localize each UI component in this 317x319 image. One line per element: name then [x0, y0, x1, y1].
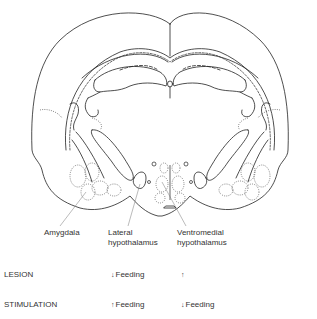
lesion-row-label: LESION	[4, 270, 33, 279]
amygdala-nucleus-1	[70, 165, 86, 187]
lesion-lateral-cell: ↓Feeding	[111, 270, 144, 279]
stimulation-row-label: STIMULATION	[4, 300, 57, 309]
brain-coronal-section-diagram	[0, 0, 317, 319]
ventromedial-hypothalamus-label: Ventromedial hypothalamus	[177, 228, 227, 248]
amygdala-leader	[60, 192, 86, 226]
inner-cortex-boundary	[65, 49, 274, 150]
up-arrow-icon: ↑	[111, 301, 115, 308]
right-ventricle	[173, 66, 246, 92]
lesion-lateral-text: Feeding	[116, 270, 145, 279]
lesion-ventromedial-cell: ↑	[181, 270, 186, 279]
up-arrow-icon: ↑	[181, 271, 185, 278]
lateral-hypothalamus-label-line1: Lateral	[108, 228, 158, 238]
brain-outer-outline	[32, 13, 289, 216]
ventromedial-hypothalamus-label-line1: Ventromedial	[177, 228, 227, 238]
stimulation-ventromedial-cell: ↓Feeding	[181, 300, 214, 309]
ventromedial-nucleus-right	[172, 176, 184, 192]
stimulation-lateral-text: Feeding	[116, 300, 145, 309]
ventromedial-hypothalamus-label-line2: hypothalamus	[177, 238, 227, 248]
down-arrow-icon: ↓	[181, 301, 185, 308]
left-internal-capsule	[91, 130, 133, 181]
amygdala-label: Amygdala	[44, 228, 80, 238]
down-arrow-icon: ↓	[111, 271, 115, 278]
stimulation-ventromedial-text: Feeding	[186, 300, 215, 309]
left-ventricle	[94, 66, 167, 92]
lateral-hypothalamus-label: Lateral hypothalamus	[108, 228, 158, 248]
lateral-hypothalamus-label-line2: hypothalamus	[108, 238, 158, 248]
stimulation-lateral-cell: ↑Feeding	[111, 300, 144, 309]
right-internal-capsule	[207, 130, 249, 181]
right-optic-tract	[194, 172, 207, 189]
third-ventricle	[168, 81, 173, 87]
